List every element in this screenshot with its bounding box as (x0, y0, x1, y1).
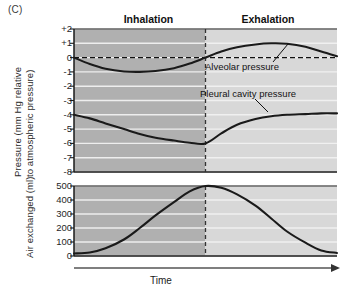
volume-chart-exhalation-band (206, 186, 338, 256)
pleural-pressure-label: Pleural cavity pressure (200, 88, 296, 99)
respiration-figure: (C) Inhalation Exhalation Pressure (mm H… (0, 0, 351, 300)
time-axis-arrow-head (331, 264, 340, 272)
time-axis-label: Time (150, 275, 172, 286)
plot-canvas (0, 0, 351, 300)
volume-chart-inhalation-band (74, 186, 206, 256)
alveolar-pressure-label: Alveolar pressure (205, 61, 279, 72)
